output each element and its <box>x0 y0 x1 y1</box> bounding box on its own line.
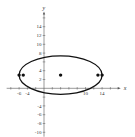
x-tick-label: 10 <box>83 91 89 96</box>
y-tick-label: 10 <box>37 42 43 47</box>
tick-labels: -6-41014141210842-4-6-8-10xy <box>17 5 127 136</box>
y-axis-arrow-icon <box>43 12 45 15</box>
focus-point <box>22 73 25 76</box>
y-tick-label: 14 <box>37 24 43 29</box>
x-axis-label: x <box>123 85 127 91</box>
vertex-point <box>100 73 103 76</box>
x-axis-arrow-icon <box>118 87 121 89</box>
y-tick-label: 12 <box>37 33 43 38</box>
y-tick-label: -8 <box>37 121 42 126</box>
x-tick-label: -6 <box>17 91 22 96</box>
y-tick-label: -10 <box>35 130 42 135</box>
y-tick-label: -6 <box>37 112 42 117</box>
ellipse-graph: -6-41014141210842-4-6-8-10xy <box>0 0 135 137</box>
y-axis-label: y <box>42 5 46 11</box>
center-point <box>59 73 62 76</box>
y-tick-label: 2 <box>39 77 42 82</box>
vertex-point <box>17 73 20 76</box>
data-points <box>17 73 103 76</box>
y-tick-label: 4 <box>39 68 42 73</box>
focus-point <box>96 73 99 76</box>
y-tick-label: -4 <box>37 104 42 109</box>
x-tick-label: 14 <box>100 91 106 96</box>
x-tick-label: -4 <box>25 91 30 96</box>
y-tick-label: 8 <box>39 51 42 56</box>
